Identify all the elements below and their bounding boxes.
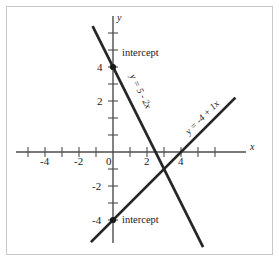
x-tick-label-4: 4: [178, 156, 184, 167]
intercept-label-bottom: intercept: [122, 215, 159, 226]
intercept-marker-bottom: [110, 217, 116, 223]
y-axis: [108, 16, 118, 243]
intercept-marker-top: [110, 64, 116, 70]
x-tick-label-2: 2: [144, 156, 150, 167]
y-tick-label-minus2: -2: [92, 181, 101, 192]
x-tick-label-minus4: -4: [40, 156, 49, 167]
y-tick-label-2: 2: [97, 96, 103, 107]
x-axis: [16, 147, 246, 157]
figure-container: -4 -2 0 2 4 4 2 -2 -4 x y intercept inte…: [0, 0, 279, 261]
x-axis-name: x: [250, 142, 254, 152]
y-tick-label-minus4: -4: [92, 215, 101, 226]
intercept-label-top: intercept: [122, 48, 159, 59]
y-tick-label-4: 4: [97, 62, 103, 73]
x-tick-label-minus2: -2: [74, 156, 83, 167]
x-tick-label-zero: 0: [106, 156, 112, 167]
y-axis-name: y: [117, 13, 121, 23]
